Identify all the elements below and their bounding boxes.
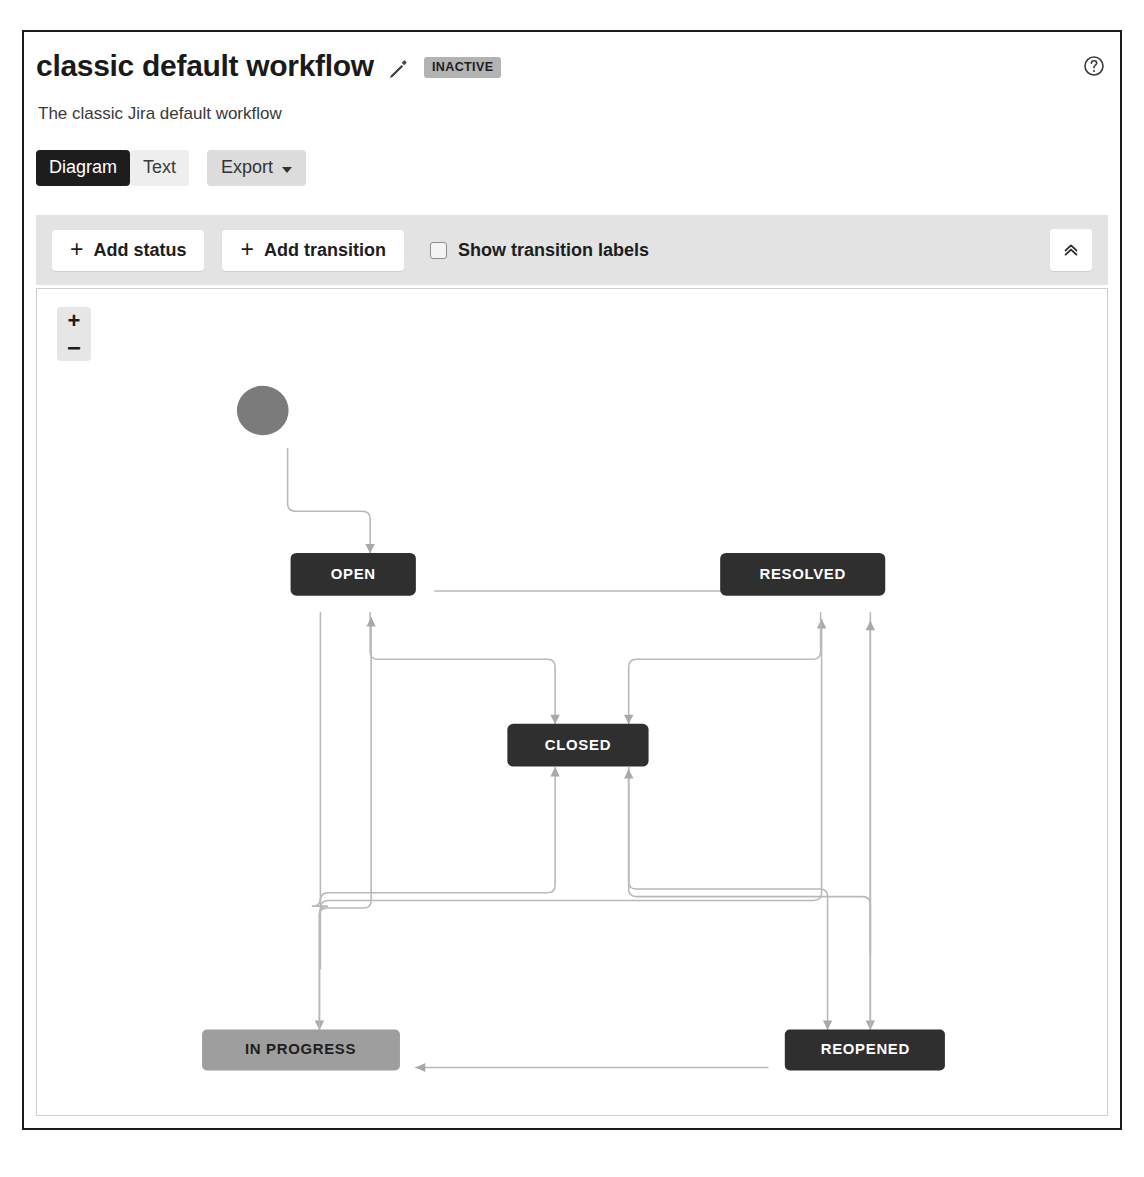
- node-in-progress-label: IN PROGRESS: [245, 1041, 356, 1057]
- add-status-button[interactable]: + Add status: [52, 230, 204, 271]
- show-transition-labels-label: Show transition labels: [458, 240, 649, 261]
- node-open-label: OPEN: [331, 567, 376, 583]
- node-reopened[interactable]: REOPENED: [785, 1030, 945, 1071]
- pencil-icon[interactable]: [388, 58, 410, 80]
- edge-inprogress-resolved: [320, 619, 821, 968]
- export-button-label: Export: [221, 157, 273, 178]
- add-transition-label: Add transition: [264, 240, 386, 261]
- tab-diagram[interactable]: Diagram: [36, 150, 130, 186]
- zoom-in-button[interactable]: +: [57, 307, 91, 335]
- header: classic default workflow INACTIVE: [36, 44, 1108, 88]
- node-resolved-label: RESOLVED: [759, 567, 845, 583]
- checkbox-box[interactable]: [430, 242, 447, 259]
- node-closed-label: CLOSED: [545, 738, 611, 754]
- chevron-down-icon: [282, 167, 292, 173]
- edge-inprogress-open: [319, 618, 371, 1049]
- diagram-toolbar: + Add status + Add transition Show trans…: [36, 215, 1108, 285]
- edge-reopened-closed: [629, 769, 871, 953]
- collapse-toolbar-button[interactable]: [1050, 229, 1092, 271]
- node-resolved[interactable]: RESOLVED: [720, 553, 885, 596]
- page-title: classic default workflow: [36, 49, 374, 83]
- node-open[interactable]: OPEN: [291, 553, 416, 596]
- zoom-out-button[interactable]: −: [57, 335, 91, 361]
- workflow-window: classic default workflow INACTIVE The cl…: [22, 30, 1122, 1130]
- show-transition-labels-checkbox[interactable]: Show transition labels: [430, 240, 649, 261]
- edge-inprogress-closed: [320, 768, 555, 907]
- plus-icon: +: [240, 240, 253, 258]
- screenshot-root: classic default workflow INACTIVE The cl…: [0, 0, 1144, 1177]
- edge-resolved-closed: [629, 613, 821, 724]
- status-badge: INACTIVE: [424, 57, 502, 78]
- question-circle-icon[interactable]: [1082, 54, 1106, 78]
- add-transition-button[interactable]: + Add transition: [222, 230, 403, 271]
- edge-closed-reopened: [629, 768, 828, 1030]
- start-node[interactable]: [237, 386, 289, 435]
- node-closed[interactable]: CLOSED: [507, 724, 648, 767]
- tab-text[interactable]: Text: [130, 150, 189, 186]
- workflow-graph: OPEN RESOLVED CLOSED IN PROGRESS: [37, 289, 1107, 1115]
- edge-start-open: [288, 449, 371, 553]
- page-subtitle: The classic Jira default workflow: [38, 104, 282, 124]
- node-reopened-label: REOPENED: [821, 1041, 910, 1057]
- plus-icon: +: [70, 240, 83, 258]
- edge-open-closed: [370, 613, 555, 724]
- double-chevron-up-icon: [1061, 240, 1081, 260]
- zoom-controls: + −: [57, 307, 91, 361]
- add-status-label: Add status: [93, 240, 186, 261]
- export-button[interactable]: Export: [207, 150, 306, 186]
- node-in-progress[interactable]: IN PROGRESS: [202, 1030, 400, 1071]
- diagram-canvas[interactable]: + −: [36, 288, 1108, 1116]
- view-tabs: Diagram Text Export: [36, 150, 306, 186]
